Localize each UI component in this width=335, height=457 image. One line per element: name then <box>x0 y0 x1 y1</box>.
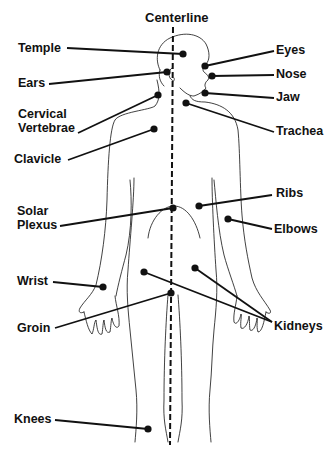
wrist-label: Wrist <box>17 274 48 288</box>
nose-leader-line <box>212 75 274 76</box>
wrist-leader-line <box>53 282 103 287</box>
groin-point-dot <box>167 289 174 296</box>
knees-label: Knees <box>14 412 52 426</box>
knees-point-dot <box>144 425 151 432</box>
kidneys-left-point-dot <box>140 268 147 275</box>
eyes-leader-line <box>205 51 274 66</box>
trachea-point-dot <box>182 99 189 106</box>
trachea-leader-line <box>186 103 274 132</box>
eyes-label: Eyes <box>276 43 305 57</box>
temple-label: Temple <box>18 41 61 55</box>
ribs-point-dot <box>195 202 202 209</box>
jaw-leader-line <box>205 93 274 98</box>
cervical-vertebrae-label: CervicalVertebrae <box>18 107 75 135</box>
solar-plexus-label: SolarPlexus <box>17 204 57 232</box>
jaw-point-dot <box>201 89 208 96</box>
wrist-point-dot <box>99 283 106 290</box>
kidneys-left-label: Kidneys <box>274 319 323 333</box>
ears-label: Ears <box>18 76 45 90</box>
nose-label: Nose <box>276 67 307 81</box>
ribs-label: Ribs <box>276 186 303 200</box>
groin-label: Groin <box>17 321 50 335</box>
body-points-diagram: Centerline TempleEarsCervicalVertebraeCl… <box>0 0 335 457</box>
ears-point-dot <box>163 68 170 75</box>
temple-point-dot <box>179 50 186 57</box>
elbows-leader-line <box>228 219 272 229</box>
cervical-vertebrae-point-dot <box>154 91 161 98</box>
knees-leader-line <box>55 420 148 429</box>
jaw-label: Jaw <box>276 90 300 104</box>
ribs-leader-line <box>199 195 272 206</box>
temple-leader-line <box>67 48 183 54</box>
leader-lines <box>49 48 274 429</box>
kidneys-right-point-dot <box>191 264 198 271</box>
trachea-label: Trachea <box>276 124 323 138</box>
solar-plexus-point-dot <box>169 204 176 211</box>
ears-leader-line <box>49 72 167 84</box>
elbows-label: Elbows <box>274 222 318 236</box>
clavicle-point-dot <box>150 125 157 132</box>
point-dots <box>99 50 231 432</box>
centerline-dashed-line <box>170 27 173 445</box>
eyes-point-dot <box>201 62 208 69</box>
clavicle-label: Clavicle <box>14 152 61 166</box>
centerline-title: Centerline <box>145 10 209 25</box>
elbows-point-dot <box>224 215 231 222</box>
cervical-vertebrae-leader-line <box>78 95 158 133</box>
nose-point-dot <box>208 72 215 79</box>
